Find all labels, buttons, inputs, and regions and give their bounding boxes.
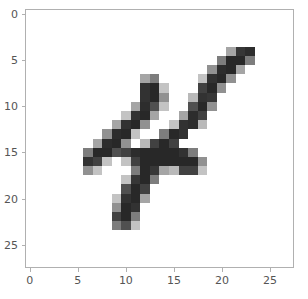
pixel-cell <box>255 175 265 184</box>
pixel-cell <box>217 249 227 258</box>
pixel-cell <box>169 194 179 203</box>
pixel-cell <box>274 221 284 230</box>
pixel-cell <box>93 19 103 28</box>
pixel-cell <box>150 148 160 157</box>
pixel-cell <box>188 102 198 111</box>
pixel-cell <box>121 47 131 56</box>
pixel-cell <box>26 120 36 129</box>
pixel-cell <box>255 221 265 230</box>
pixel-cell <box>45 184 55 193</box>
pixel-cell <box>140 166 150 175</box>
pixel-cell <box>121 65 131 74</box>
pixel-cell <box>255 120 265 129</box>
pixel-cell <box>83 111 93 120</box>
pixel-cell <box>45 239 55 248</box>
pixel-cell <box>45 56 55 65</box>
pixel-cell <box>188 111 198 120</box>
pixel-cell <box>226 175 236 184</box>
pixel-cell <box>245 47 255 56</box>
pixel-cell <box>169 139 179 148</box>
pixel-cell <box>36 28 46 37</box>
pixel-cell <box>188 65 198 74</box>
pixel-cell <box>140 212 150 221</box>
pixel-cell <box>64 28 74 37</box>
pixel-cell <box>102 157 112 166</box>
pixel-cell <box>236 47 246 56</box>
pixel-cell <box>121 184 131 193</box>
pixel-cell <box>188 148 198 157</box>
y-tick-mark <box>22 199 26 200</box>
pixel-cell <box>264 230 274 239</box>
pixel-cell <box>226 56 236 65</box>
pixel-cell <box>188 249 198 258</box>
pixel-cell <box>274 120 284 129</box>
pixel-cell <box>207 120 217 129</box>
pixel-cell <box>64 83 74 92</box>
pixel-cell <box>36 83 46 92</box>
pixel-cell <box>36 221 46 230</box>
pixel-cell <box>83 93 93 102</box>
pixel-cell <box>283 258 293 267</box>
pixel-cell <box>159 28 169 37</box>
pixel-cell <box>283 56 293 65</box>
pixel-cell <box>26 83 36 92</box>
pixel-cell <box>36 139 46 148</box>
pixel-cell <box>83 212 93 221</box>
pixel-cell <box>264 111 274 120</box>
pixel-cell <box>264 212 274 221</box>
pixel-cell <box>36 148 46 157</box>
pixel-cell <box>188 28 198 37</box>
pixel-cell <box>226 93 236 102</box>
pixel-cell <box>217 258 227 267</box>
pixel-cell <box>131 194 141 203</box>
pixel-cell <box>274 93 284 102</box>
pixel-cell <box>36 93 46 102</box>
pixel-cell <box>102 65 112 74</box>
pixel-cell <box>179 166 189 175</box>
pixel-cell <box>179 175 189 184</box>
pixel-cell <box>207 239 217 248</box>
pixel-cell <box>36 38 46 47</box>
pixel-cell <box>159 203 169 212</box>
pixel-cell <box>245 10 255 19</box>
pixel-cell <box>179 230 189 239</box>
pixel-cell <box>36 157 46 166</box>
pixel-cell <box>226 249 236 258</box>
pixel-cell <box>26 212 36 221</box>
pixel-cell <box>93 221 103 230</box>
pixel-cell <box>131 203 141 212</box>
pixel-cell <box>159 74 169 83</box>
pixel-cell <box>217 83 227 92</box>
y-tick-mark <box>22 60 26 61</box>
pixel-cell <box>236 203 246 212</box>
pixel-cell <box>217 74 227 83</box>
pixel-cell <box>255 38 265 47</box>
pixel-cell <box>121 203 131 212</box>
pixel-cell <box>55 102 65 111</box>
pixel-cell <box>226 184 236 193</box>
pixel-cell <box>236 157 246 166</box>
pixel-cell <box>102 221 112 230</box>
pixel-cell <box>121 10 131 19</box>
pixel-cell <box>226 38 236 47</box>
pixel-cell <box>198 157 208 166</box>
pixel-cell <box>45 258 55 267</box>
pixel-cell <box>45 65 55 74</box>
pixel-cell <box>140 19 150 28</box>
pixel-cell <box>159 65 169 74</box>
pixel-cell <box>255 93 265 102</box>
pixel-cell <box>255 148 265 157</box>
image-axes <box>25 9 294 268</box>
pixel-cell <box>226 102 236 111</box>
pixel-cell <box>245 74 255 83</box>
pixel-cell <box>283 239 293 248</box>
x-tick-mark <box>30 268 31 272</box>
pixel-cell <box>45 230 55 239</box>
matplotlib-figure: 0510152025 0510152025 <box>0 0 308 299</box>
y-tick-label: 5 <box>0 54 18 65</box>
pixel-cell <box>179 47 189 56</box>
pixel-cell <box>55 212 65 221</box>
pixel-cell <box>236 249 246 258</box>
pixel-cell <box>188 56 198 65</box>
pixel-cell <box>45 221 55 230</box>
